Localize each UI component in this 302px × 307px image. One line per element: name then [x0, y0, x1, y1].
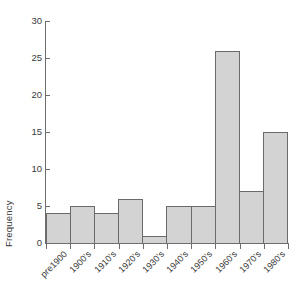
bar-1950s [191, 206, 216, 243]
bar-1900s [70, 206, 95, 243]
x-tick-mark [288, 244, 289, 249]
bar-1980s [263, 132, 288, 243]
bar-1920s [118, 199, 143, 243]
y-axis-title: Frequency [2, 186, 16, 262]
y-tick-label: 5 [20, 200, 42, 212]
plot-area [46, 21, 288, 243]
y-tick-label: 10 [20, 163, 42, 175]
bar-pre1900 [46, 213, 71, 243]
x-axis-labels: pre19001900's1910's1920's1930's1940's195… [46, 249, 288, 305]
y-tick-label: 30 [20, 15, 42, 27]
y-tick-label: 20 [20, 89, 42, 101]
bar-1910s [94, 213, 119, 243]
bars-container [46, 21, 288, 243]
y-tick-label: 25 [20, 52, 42, 64]
y-tick-label: 15 [20, 126, 42, 138]
bar-1940s [166, 206, 191, 243]
y-tick-label: 0 [20, 237, 42, 249]
bar-1960s [215, 51, 240, 243]
frequency-histogram: Frequency 051015202530 pre19001900's1910… [0, 0, 302, 307]
bar-1930s [142, 236, 167, 243]
bar-1970s [239, 191, 264, 243]
